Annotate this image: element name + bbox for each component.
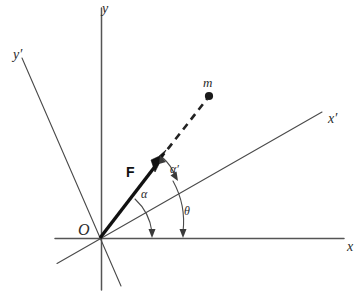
theta-angle-label: θ [184, 205, 190, 217]
diagram-canvas [0, 0, 364, 299]
mass-point-dot [205, 92, 213, 100]
theta-arc [173, 181, 184, 232]
x-axis-label: x [347, 240, 353, 254]
force-vector-label: F [126, 165, 135, 179]
y-prime-axis-label: y′ [13, 48, 22, 62]
alpha-arc [135, 199, 152, 232]
y-axis-label: y [102, 2, 108, 16]
alpha-arc-arrowhead [149, 229, 156, 238]
origin-label: O [78, 222, 90, 238]
y-prime-axis-line [22, 58, 121, 286]
alpha-prime-angle-label: α′ [170, 163, 179, 175]
mass-label: m [203, 76, 212, 89]
force-diagram-figure: y y′ x′ x O m F α α′ θ [0, 0, 364, 299]
alpha-angle-label: α [141, 188, 147, 200]
x-prime-axis-line [57, 112, 322, 264]
theta-arc-arrowhead [180, 229, 187, 238]
dashed-line-to-mass [160, 99, 207, 159]
x-prime-axis-label: x′ [328, 112, 337, 126]
